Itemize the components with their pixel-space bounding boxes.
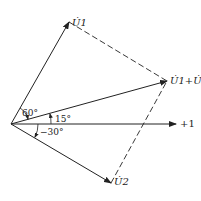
arc-15 bbox=[50, 114, 51, 124]
angle-label-minus-30: −30° bbox=[40, 127, 64, 137]
angle-label-15: 15° bbox=[55, 114, 71, 124]
dashed-edge-u2-sum bbox=[111, 81, 167, 183]
axis-label-plus-one: +1 bbox=[180, 119, 195, 129]
arc-minus-30 bbox=[35, 124, 38, 137]
dashed-edge-u1-sum bbox=[69, 22, 167, 81]
label-u2: U̇2 bbox=[114, 177, 129, 187]
label-sum: U̇1+U̇2 bbox=[170, 76, 201, 86]
label-u1: U̇1 bbox=[72, 18, 87, 28]
phasor-diagram bbox=[0, 0, 201, 201]
phasor-u1 bbox=[11, 22, 69, 124]
angle-label-60: 60° bbox=[22, 108, 38, 118]
